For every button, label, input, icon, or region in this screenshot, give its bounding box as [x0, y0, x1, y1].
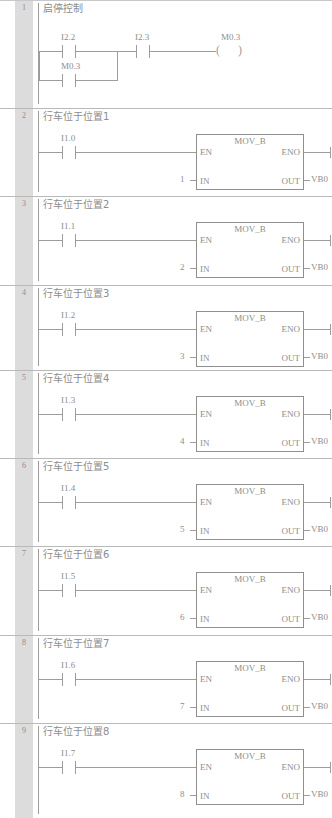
coil-paren-right: )	[238, 43, 242, 57]
function-block-mov-b[interactable]: MOV_BENENOINOUT	[196, 661, 304, 717]
branch-vertical-right	[117, 51, 118, 80]
out-wire	[304, 268, 310, 269]
eno-wire	[304, 152, 330, 153]
network-gutter	[15, 109, 33, 196]
pin-eno: ENO	[282, 409, 301, 420]
out-operand: VB0	[311, 262, 328, 273]
network-number: 8	[15, 638, 33, 648]
contact-I1.2[interactable]	[62, 323, 76, 336]
network-3: 3行车位于位置2I1.1MOV_BENENOINOUT2VB0	[0, 196, 332, 285]
in-operand: 6	[180, 612, 185, 623]
contact-bar-left	[62, 673, 63, 686]
rung-wire	[76, 152, 196, 153]
contact-label: I1.2	[61, 310, 75, 321]
rung-wire	[76, 51, 118, 52]
rung-terminator	[330, 585, 331, 596]
in-operand: 2	[180, 262, 185, 273]
contact-bar-left	[62, 74, 63, 87]
pin-in: IN	[200, 353, 210, 364]
function-block-mov-b[interactable]: MOV_BENENOINOUT	[196, 311, 304, 367]
function-block-mov-b[interactable]: MOV_BENENOINOUT	[196, 134, 304, 190]
network-number: 1	[15, 3, 33, 13]
contact-I1.1[interactable]	[62, 234, 76, 247]
coil-label: M0.3	[221, 32, 240, 43]
in-wire	[190, 357, 196, 358]
network-6: 6行车位于位置5I1.4MOV_BENENOINOUT5VB0	[0, 458, 332, 546]
function-block-title: MOV_B	[197, 136, 303, 147]
function-block-mov-b[interactable]: MOV_BENENOINOUT	[196, 749, 304, 805]
rung-wire	[39, 414, 62, 415]
function-block-mov-b[interactable]: MOV_BENENOINOUT	[196, 222, 304, 278]
contact-bar-left	[62, 584, 63, 597]
contact-I1.6[interactable]	[62, 673, 76, 686]
out-wire	[304, 530, 310, 531]
contact-label: I1.6	[61, 660, 75, 671]
contact-I1.0[interactable]	[62, 146, 76, 159]
rung-terminator	[330, 409, 331, 420]
network-number: 3	[15, 199, 33, 209]
network-title: 行车位于位置8	[43, 725, 109, 738]
pin-eno: ENO	[282, 235, 301, 246]
in-wire	[190, 795, 196, 796]
rung-wire	[76, 329, 196, 330]
network-number: 5	[15, 373, 33, 383]
network-title: 行车位于位置2	[43, 198, 109, 211]
contact-I1.7[interactable]	[62, 761, 76, 774]
pin-en: EN	[200, 147, 212, 158]
contact-I2.3[interactable]	[136, 45, 150, 58]
contact-M0.3[interactable]	[62, 74, 76, 87]
function-block-mov-b[interactable]: MOV_BENENOINOUT	[196, 396, 304, 452]
contact-I2.2[interactable]	[62, 45, 76, 58]
network-title: 启停控制	[43, 2, 83, 15]
network-number: 7	[15, 549, 33, 559]
rung-wire	[39, 51, 62, 52]
contact-bar-left	[62, 146, 63, 159]
function-block-title: MOV_B	[197, 486, 303, 497]
contact-I1.3[interactable]	[62, 408, 76, 421]
eno-wire	[304, 767, 330, 768]
rung-wire	[150, 51, 216, 52]
function-block-title: MOV_B	[197, 574, 303, 585]
pin-out: OUT	[282, 264, 301, 275]
function-block-title: MOV_B	[197, 751, 303, 762]
function-block-title: MOV_B	[197, 398, 303, 409]
network-gutter	[15, 459, 33, 546]
out-wire	[304, 618, 310, 619]
rung-terminator	[330, 147, 331, 158]
contact-I1.5[interactable]	[62, 584, 76, 597]
contact-label: I1.4	[61, 483, 75, 494]
rung-wire	[39, 679, 62, 680]
contact-label: I1.3	[61, 395, 75, 406]
contact-label: I1.5	[61, 571, 75, 582]
pin-eno: ENO	[282, 585, 301, 596]
network-title: 行车位于位置1	[43, 110, 109, 123]
out-wire	[304, 707, 310, 708]
in-operand: 8	[180, 789, 185, 800]
out-operand: VB0	[311, 701, 328, 712]
pin-in: IN	[200, 264, 210, 275]
network-title: 行车位于位置4	[43, 372, 109, 385]
pin-en: EN	[200, 235, 212, 246]
network-8: 8行车位于位置7I1.6MOV_BENENOINOUT7VB0	[0, 635, 332, 723]
out-wire	[304, 180, 310, 181]
out-operand: VB0	[311, 174, 328, 185]
pin-in: IN	[200, 176, 210, 187]
network-number: 9	[15, 726, 33, 736]
network-4: 4行车位于位置3I1.2MOV_BENENOINOUT3VB0	[0, 285, 332, 370]
network-gutter	[15, 197, 33, 285]
power-rail-left	[38, 726, 39, 814]
pin-out: OUT	[282, 176, 301, 187]
coil-M0.3[interactable]: ()	[216, 44, 242, 58]
contact-I1.4[interactable]	[62, 496, 76, 509]
function-block-mov-b[interactable]: MOV_BENENOINOUT	[196, 484, 304, 540]
function-block-mov-b[interactable]: MOV_BENENOINOUT	[196, 572, 304, 628]
out-operand: VB0	[311, 524, 328, 535]
in-wire	[190, 442, 196, 443]
eno-wire	[304, 679, 330, 680]
in-operand: 7	[180, 701, 185, 712]
branch-wire	[39, 80, 62, 81]
out-wire	[304, 795, 310, 796]
function-block-title: MOV_B	[197, 663, 303, 674]
power-rail-left	[38, 288, 39, 366]
network-2: 2行车位于位置1I1.0MOV_BENENOINOUT1VB0	[0, 108, 332, 196]
